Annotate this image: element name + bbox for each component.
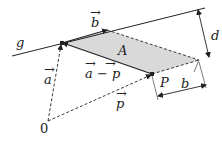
vector-a-minus-p-arrow-glyph-a: → bbox=[85, 56, 96, 71]
label-distance-d: d bbox=[211, 28, 219, 43]
point-a-marker bbox=[60, 41, 64, 45]
point-p-marker bbox=[150, 72, 154, 76]
label-base-b: b bbox=[181, 76, 189, 91]
vector-b-arrow-glyph: → bbox=[90, 5, 101, 20]
vector-p-arrow bbox=[48, 75, 151, 121]
label-area-a: A bbox=[117, 43, 127, 58]
b-extension-line-right bbox=[199, 62, 206, 88]
label-g: g bbox=[16, 35, 24, 50]
parallelogram-distance-diagram: g b → A a − p → → a → p → P d b 0 bbox=[0, 0, 222, 145]
vector-a-arrow-glyph: → bbox=[44, 62, 55, 77]
distance-d-arrow bbox=[198, 10, 209, 57]
b-extension-line-left bbox=[152, 76, 158, 100]
vector-p-arrow-glyph: → bbox=[116, 86, 127, 101]
vector-a-minus-p-arrow-glyph-p: → bbox=[105, 56, 116, 71]
label-origin: 0 bbox=[40, 121, 48, 136]
d-extension-line bbox=[194, 60, 199, 72]
label-point-p: P bbox=[159, 75, 169, 90]
